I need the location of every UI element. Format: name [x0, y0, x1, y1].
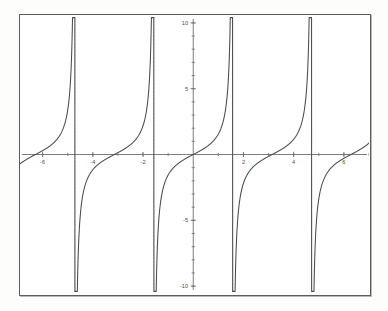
figure-page: -6-4-2246-10-5510 — [0, 0, 388, 311]
y-tick-label: 10 — [182, 20, 188, 26]
x-tick-label: -6 — [40, 159, 45, 165]
x-tick-label: 6 — [342, 159, 345, 165]
x-tick-label: -2 — [141, 159, 146, 165]
x-tick-label: -4 — [90, 159, 95, 165]
y-tick-label: 5 — [185, 86, 188, 92]
y-tick-label: -10 — [180, 283, 188, 289]
x-tick-label: 4 — [292, 159, 295, 165]
plot-canvas: -6-4-2246-10-5510 — [20, 15, 369, 294]
y-tick-label: -5 — [183, 217, 188, 223]
x-tick-label: 2 — [242, 159, 245, 165]
plot-frame: -6-4-2246-10-5510 — [19, 14, 371, 296]
